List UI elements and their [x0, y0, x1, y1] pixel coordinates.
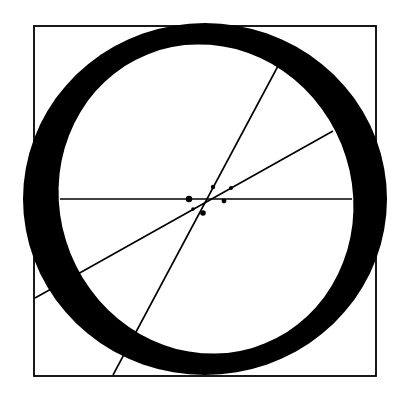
- steep-diagonal-line: [113, 66, 278, 375]
- point-left: [186, 196, 192, 202]
- point-lower: [200, 210, 206, 216]
- letter-o-construction-diagram: [0, 0, 406, 403]
- point-lower-left: [191, 207, 195, 211]
- shallow-diagonal-line: [35, 131, 333, 298]
- point-upper-right: [229, 186, 233, 190]
- point-right: [222, 199, 227, 204]
- point-upper: [211, 185, 215, 189]
